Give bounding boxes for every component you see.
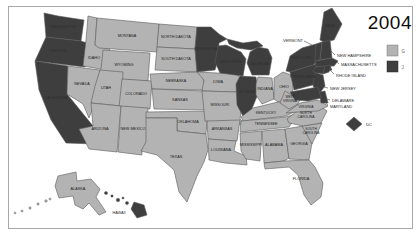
state-label-minnesota: MINNESOTA bbox=[195, 47, 218, 51]
state-label-maine: MAINE bbox=[325, 24, 336, 28]
election-map-2004: WASHINGTONOREGONCALIFORNIAIDAHOMONTANAWY… bbox=[0, 0, 420, 237]
state-label-idaho: IDAHO bbox=[88, 56, 100, 60]
state-label-nebraska: NEBRASKA bbox=[166, 79, 187, 83]
state-label-oklahoma: OKLAHOMA bbox=[177, 120, 199, 124]
state-label-montana: MONTANA bbox=[118, 34, 137, 38]
state-label-washington: WASHINGTON bbox=[50, 25, 76, 29]
aleutian-4 bbox=[29, 207, 31, 209]
state-label-north-dakota: NORTH DAKOTA bbox=[161, 35, 191, 39]
state-label-ohio: OHIO bbox=[279, 85, 289, 89]
state-label-illinois: ILLINOIS bbox=[239, 90, 255, 94]
callout-label-rhode-island: RHODE ISLAND bbox=[336, 73, 366, 78]
state-label-oregon: OREGON bbox=[50, 49, 67, 53]
state-label-missouri: MISSOURI bbox=[211, 103, 230, 107]
callout-label-delaware: DELAWARE bbox=[332, 98, 354, 103]
state-label-new-mexico: NEW MEXICO bbox=[121, 127, 146, 131]
state-label-west-virginia: WEST bbox=[285, 95, 294, 99]
state-label-alabama: ALABAMA bbox=[265, 143, 283, 147]
state-label-west-virginia: VIRGINIA bbox=[283, 99, 298, 103]
aleutian-5 bbox=[21, 210, 23, 212]
state-label-utah: UTAH bbox=[101, 86, 111, 90]
state-label-south-carolina: CAROLINA bbox=[303, 131, 321, 135]
year-title: 2004 bbox=[368, 12, 412, 33]
callout-label-massachusetts: MASSACHUSETTS bbox=[341, 62, 377, 67]
state-label-michigan: MICHIGAN bbox=[251, 62, 270, 66]
state-label-virginia: VIRGINIA bbox=[299, 105, 315, 109]
state-label-hawaii: HAWAII bbox=[112, 211, 125, 215]
state-label-mississippi: MISSISSIPPI bbox=[240, 143, 263, 147]
state-label-south-dakota: SOUTH DAKOTA bbox=[161, 57, 191, 61]
state-label-nevada: NEVADA bbox=[74, 82, 90, 86]
state-label-kentucky: KENTUCKY bbox=[256, 111, 277, 115]
state-label-wyoming: WYOMING bbox=[115, 63, 134, 67]
state-label-tennessee: TENNESSEE bbox=[255, 122, 278, 126]
state-label-new-york: NEW YORK bbox=[291, 56, 312, 60]
callout-label-maryland: MARYLAND bbox=[330, 104, 352, 109]
state-label-iowa: IOWA bbox=[213, 80, 223, 84]
legend-label-g: G bbox=[402, 49, 406, 54]
state-label-california: CALIFORNIA bbox=[45, 96, 68, 100]
hawaii-island-1 bbox=[104, 191, 107, 194]
hawaii-island-4 bbox=[122, 197, 124, 199]
state-label-indiana: INDIANA bbox=[257, 87, 273, 91]
state-label-kansas: KANSAS bbox=[172, 98, 188, 102]
state-label-arizona: ARIZONA bbox=[92, 127, 109, 131]
hawaii-island-2 bbox=[111, 195, 113, 197]
state-label-georgia: GEORGIA bbox=[290, 142, 308, 146]
callout-label-new-hampshire: NEW HAMPSHIRE bbox=[337, 53, 372, 58]
state-label-wisconsin: WISCONSIN bbox=[220, 60, 242, 64]
state-michigan bbox=[247, 47, 272, 75]
state-label-florida: FLORIDA bbox=[293, 177, 310, 181]
callout-label-vermont: VERMONT bbox=[283, 38, 304, 43]
state-new-hampshire bbox=[320, 40, 332, 60]
callout-label-new-jersey: NEW JERSEY bbox=[330, 86, 356, 91]
state-label-north-carolina: NORTH bbox=[300, 111, 312, 115]
aleutian-3 bbox=[37, 203, 39, 205]
screenshot-root: WASHINGTONOREGONCALIFORNIAIDAHOMONTANAWY… bbox=[0, 0, 420, 237]
state-label-north-carolina: CAROLINA bbox=[298, 115, 316, 119]
state-label-colorado: COLORADO bbox=[125, 92, 147, 96]
state-label-louisiana: LOUISIANA bbox=[211, 148, 232, 152]
aleutian-2 bbox=[45, 200, 48, 203]
state-label-pennsylvania: PENNSYLVANIA bbox=[290, 75, 316, 79]
legend-swatch-j bbox=[387, 61, 398, 72]
aleutian-6 bbox=[14, 212, 16, 214]
state-label-arkansas: ARKANSAS bbox=[212, 127, 233, 131]
legend-swatch-g bbox=[387, 45, 398, 56]
state-label-south-carolina: SOUTH bbox=[305, 127, 317, 131]
legend-label-j: J bbox=[402, 65, 404, 70]
dc-label: DC bbox=[366, 122, 372, 127]
state-label-texas: TEXAS bbox=[170, 155, 183, 159]
state-label-alaska: ALASKA bbox=[71, 187, 86, 191]
aleutian-1 bbox=[49, 198, 51, 200]
hawaii-island-3 bbox=[116, 198, 120, 202]
hawaii-island-5 bbox=[125, 201, 128, 204]
